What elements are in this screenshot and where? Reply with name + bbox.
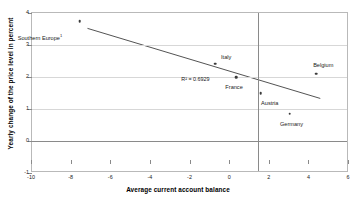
- y-axis-tick-label: 1: [18, 105, 29, 111]
- y-axis-tick-label: 4: [18, 9, 29, 15]
- plot-area: R² = 0.6929Southern Europe1ItalyFranceBe…: [31, 12, 348, 172]
- x-axis-tick-label: -6: [108, 174, 113, 180]
- y-axis-title: Yearly change of the price level in perc…: [7, 4, 14, 164]
- x-axis-tick-label: 4: [307, 174, 310, 180]
- x-axis-tick: [308, 160, 309, 164]
- y-axis-tick-label: 3: [18, 41, 29, 47]
- x-axis-tick: [150, 160, 151, 164]
- zero-reference-line: [32, 141, 347, 142]
- x-axis-tick: [71, 160, 72, 164]
- data-point-label: Austria: [261, 100, 278, 107]
- data-point[interactable]: [260, 92, 263, 95]
- x-axis-tick: [229, 160, 230, 164]
- data-point[interactable]: [235, 76, 238, 79]
- scatter-chart: Yearly change of the price level in perc…: [0, 0, 356, 200]
- x-axis-tick: [269, 160, 270, 164]
- data-point-label: Italy: [221, 54, 231, 61]
- x-axis-tick: [348, 160, 349, 164]
- data-point-label: France: [225, 84, 242, 91]
- data-point[interactable]: [78, 20, 81, 23]
- x-axis-tick: [31, 160, 32, 164]
- r-squared-annotation: R² = 0.6929: [181, 76, 209, 82]
- x-axis-tick-label: -2: [187, 174, 192, 180]
- trendline: [32, 13, 349, 173]
- x-axis-title: Average current account balance: [0, 186, 356, 193]
- x-axis-tick-label: -4: [147, 174, 152, 180]
- data-point-label: Belgium: [313, 62, 333, 69]
- x-axis-tick-label: 6: [347, 174, 350, 180]
- data-point[interactable]: [214, 62, 217, 65]
- x-axis-tick-label: 0: [228, 174, 231, 180]
- y-axis-tick-label: 0: [18, 137, 29, 143]
- y-axis-tick-label: 2: [18, 73, 29, 79]
- x-axis-tick-label: -8: [68, 174, 73, 180]
- x-axis-tick: [190, 160, 191, 164]
- x-axis-tick-label: 2: [267, 174, 270, 180]
- data-point-label: Germany: [280, 121, 303, 128]
- x-axis-tick: [110, 160, 111, 164]
- gridline-horizontal: [32, 45, 347, 46]
- gridline-horizontal: [32, 109, 347, 110]
- y-axis-tick-label: -1: [18, 169, 29, 175]
- data-point[interactable]: [288, 113, 291, 116]
- data-point[interactable]: [315, 73, 318, 76]
